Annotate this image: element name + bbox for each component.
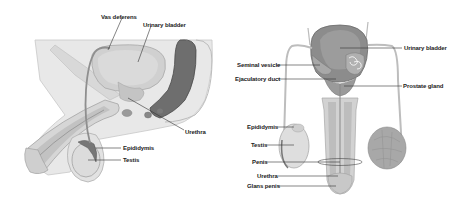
label-epididymis: Epididymis (247, 124, 278, 131)
label-seminal-vesicle: Seminal vesicle (237, 62, 280, 69)
label-glans-penis: Glans penis (247, 183, 280, 190)
label-testis: Testis (123, 157, 139, 164)
label-ejaculatory-duct: Ejaculatory duct (235, 76, 280, 83)
label-urinary-bladder: Urinary bladder (404, 45, 447, 52)
sagittal-view-panel: Vas deferens Urinary bladder Urethra Epi… (0, 0, 232, 204)
label-urinary-bladder: Urinary bladder (143, 22, 186, 29)
label-penis: Penis (252, 159, 268, 166)
label-urethra: Urethra (257, 173, 278, 180)
label-prostate-gland: Prostate gland (403, 83, 443, 90)
label-epididymis: Epididymis (123, 145, 154, 152)
sagittal-anatomy-illustration (0, 0, 232, 204)
label-urethra: Urethra (185, 129, 206, 136)
label-vas-deferens: Vas deferens (101, 14, 137, 21)
label-testis: Testis (251, 142, 267, 149)
frontal-view-panel: Urinary bladder Seminal vesicle Ejaculat… (232, 0, 464, 204)
